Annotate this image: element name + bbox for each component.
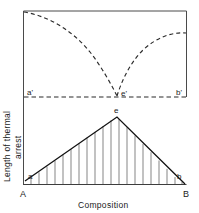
x-axis-right-endpoint-label: B <box>183 189 189 199</box>
x-axis-title: Composition <box>78 200 129 210</box>
x-axis-left-endpoint-label: A <box>20 189 26 199</box>
triangle-hatch-fill <box>31 119 182 184</box>
lower-panel-axes <box>24 97 187 185</box>
label-a-prime: a' <box>27 88 33 97</box>
label-e-prime: e' <box>121 89 127 98</box>
y-axis-title-line1: Length of thermal <box>2 111 12 182</box>
label-b: b <box>177 172 182 181</box>
label-a: a <box>28 172 33 181</box>
thermal-arrest-triangle <box>25 117 185 184</box>
label-e: e <box>114 106 119 115</box>
y-axis-title: Length of thermal arrest <box>2 111 23 182</box>
liquidus-right-curve <box>117 33 186 96</box>
thermal-arrest-figure: a' e' b' <box>0 0 199 213</box>
upper-panel-frame <box>24 11 187 97</box>
y-axis-title-line2: arrest <box>13 135 23 159</box>
liquidus-left-curve <box>24 12 117 96</box>
figure-canvas: a' e' b' <box>0 0 199 213</box>
label-b-prime: b' <box>176 88 182 97</box>
